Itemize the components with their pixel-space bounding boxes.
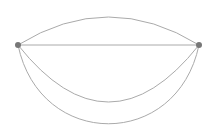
edge-bottom-arc (18, 45, 199, 124)
edge-middle-arc (18, 45, 199, 102)
node-right (196, 42, 202, 48)
edges-group (18, 17, 199, 124)
graph-canvas (0, 0, 218, 138)
edge-top-arc (18, 17, 199, 45)
node-left (15, 42, 21, 48)
